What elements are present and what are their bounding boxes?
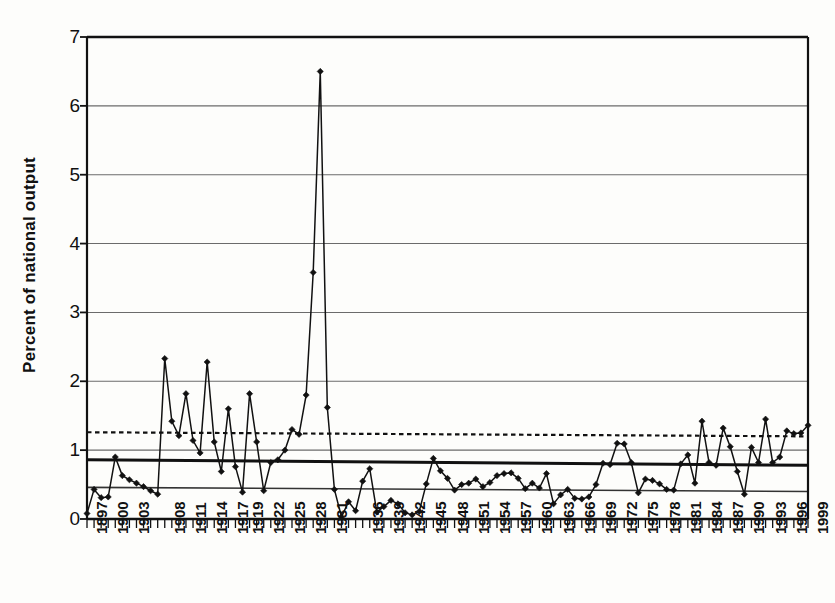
gridline-group xyxy=(87,37,808,450)
data-point-marker xyxy=(543,470,549,476)
data-point-marker xyxy=(324,404,330,410)
data-point-marker xyxy=(466,480,472,486)
data-point-marker xyxy=(649,477,655,483)
data-point-marker xyxy=(303,392,309,398)
data-point-marker xyxy=(133,480,139,486)
data-point-marker xyxy=(692,480,698,486)
data-point-marker xyxy=(430,455,436,461)
y-tick-label-group: 01234567 xyxy=(50,0,80,603)
data-point-marker xyxy=(310,269,316,275)
data-point-marker xyxy=(190,437,196,443)
data-point-marker xyxy=(416,508,422,514)
y-tick-label: 2 xyxy=(54,370,80,392)
data-point-marker xyxy=(331,486,337,492)
y-tick-label: 5 xyxy=(54,164,80,186)
data-point-marker xyxy=(586,494,592,500)
data-point-marker xyxy=(409,512,415,518)
data-point-marker xyxy=(317,68,323,74)
data-point-marker xyxy=(699,418,705,424)
data-series-markers xyxy=(84,68,811,520)
data-point-marker xyxy=(600,460,606,466)
y-tick-label: 4 xyxy=(54,233,80,255)
data-point-marker xyxy=(246,391,252,397)
data-point-marker xyxy=(155,491,161,497)
data-point-marker xyxy=(84,510,90,516)
data-point-marker xyxy=(642,476,648,482)
data-point-marker xyxy=(784,428,790,434)
data-point-marker xyxy=(727,444,733,450)
data-point-marker xyxy=(119,473,125,479)
plot-canvas xyxy=(0,0,835,603)
data-point-marker xyxy=(423,481,429,487)
data-point-marker xyxy=(204,359,210,365)
data-point-marker xyxy=(748,444,754,450)
y-tick-label: 6 xyxy=(54,95,80,117)
data-point-marker xyxy=(360,478,366,484)
data-point-marker xyxy=(593,481,599,487)
data-point-marker xyxy=(734,468,740,474)
thick-mean-line xyxy=(87,460,808,466)
data-point-marker xyxy=(671,487,677,493)
data-point-marker xyxy=(762,416,768,422)
data-point-marker xyxy=(105,494,111,500)
data-point-marker xyxy=(579,496,585,502)
axis-frame xyxy=(87,37,808,519)
data-point-marker xyxy=(211,439,217,445)
data-point-marker xyxy=(169,418,175,424)
data-point-marker xyxy=(225,406,231,412)
data-point-marker xyxy=(614,440,620,446)
data-point-marker xyxy=(232,464,238,470)
data-point-marker xyxy=(367,466,373,472)
data-point-marker xyxy=(126,477,132,483)
data-point-marker xyxy=(183,391,189,397)
y-tick-label: 7 xyxy=(54,26,80,48)
x-tick-marks xyxy=(87,519,808,528)
data-point-marker xyxy=(741,491,747,497)
chart-figure: Percent of national output 01234567 1897… xyxy=(0,0,835,603)
data-point-marker xyxy=(254,439,260,445)
y-tick-label: 0 xyxy=(54,508,80,530)
data-point-marker xyxy=(239,489,245,495)
data-point-marker xyxy=(140,484,146,490)
data-point-marker xyxy=(501,470,507,476)
y-tick-label: 3 xyxy=(54,301,80,323)
data-point-marker xyxy=(218,468,224,474)
y-tick-label: 1 xyxy=(54,439,80,461)
data-point-marker xyxy=(162,355,168,361)
thin-lower-line xyxy=(87,487,808,491)
data-point-marker xyxy=(197,450,203,456)
data-point-marker xyxy=(621,441,627,447)
data-point-marker xyxy=(720,425,726,431)
data-point-marker xyxy=(148,488,154,494)
